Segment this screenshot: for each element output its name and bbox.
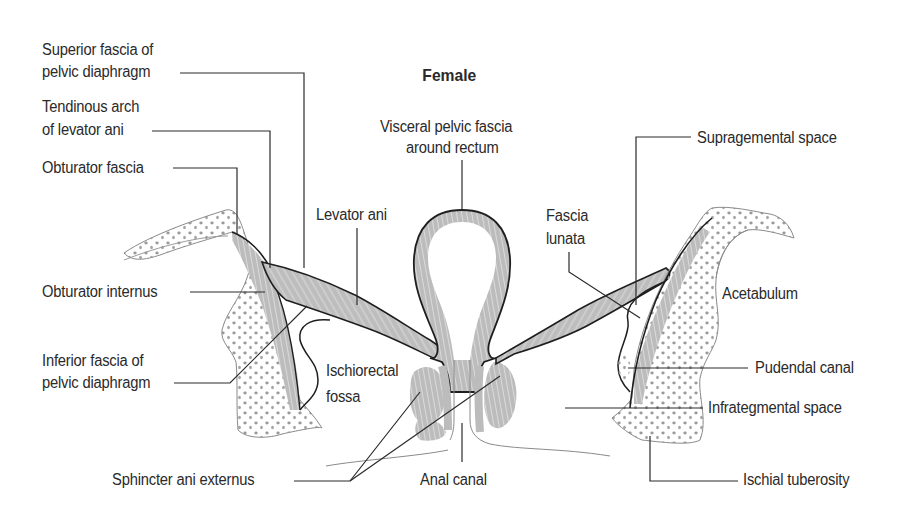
left-sphincter-ani-externus (410, 366, 448, 441)
label-superior-fascia-line2: pelvic diaphragm (42, 61, 150, 82)
label-tendinous-arch-line1: Tendinous arch (42, 96, 139, 117)
label-visceral-fascia-line2: around rectum (406, 137, 499, 158)
label-ischiorectal-fossa-line1: Ischiorectal (326, 360, 398, 381)
label-inferior-fascia-line1: Inferior fascia of (42, 350, 143, 371)
pudendal-canal-shape (618, 350, 630, 382)
label-anal-canal: Anal canal (420, 469, 487, 490)
right-sphincter-ani-externus (479, 362, 517, 432)
diagram-title: Female (422, 66, 476, 86)
label-infrategmental-space: Infrategmental space (708, 397, 842, 418)
label-ischiorectal-fossa-line2: fossa (326, 386, 360, 407)
label-sphincter-ani-externus: Sphincter ani externus (112, 469, 254, 490)
label-inferior-fascia-line2: pelvic diaphragm (42, 372, 150, 393)
label-supragemental-space: Supragemental space (697, 127, 837, 148)
label-tendinous-arch-line2: of levator ani (42, 119, 124, 140)
label-obturator-internus: Obturator internus (42, 281, 157, 302)
label-superior-fascia-line1: Superior fascia of (42, 39, 153, 60)
label-levator-ani: Levator ani (316, 204, 387, 225)
label-fascia-lunata-line2: lunata (546, 228, 585, 249)
label-obturator-fascia: Obturator fascia (42, 157, 144, 178)
label-fascia-lunata-line1: Fascia (546, 205, 588, 226)
label-visceral-fascia-line1: Visceral pelvic fascia (380, 116, 512, 137)
label-pudendal-canal: Pudendal canal (755, 357, 854, 378)
label-acetabulum: Acetabulum (722, 283, 798, 304)
label-ischial-tuberosity: Ischial tuberosity (743, 469, 849, 490)
